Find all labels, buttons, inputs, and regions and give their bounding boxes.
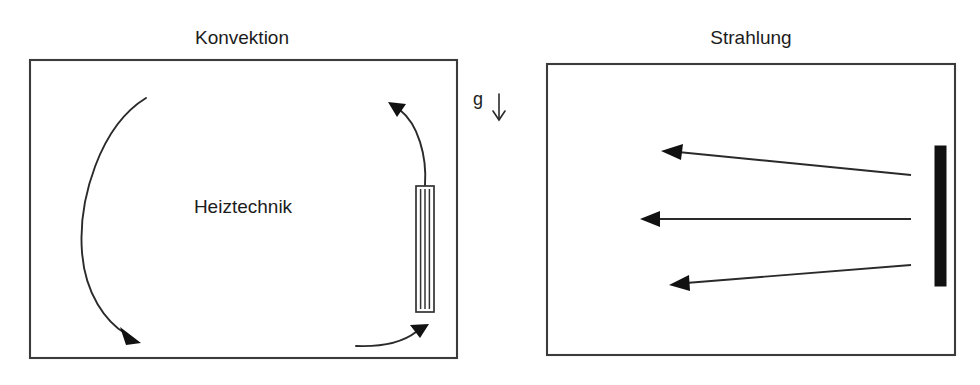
panel-title-konvektion: Konvektion	[195, 27, 289, 48]
gravity-indicator: g	[473, 89, 505, 120]
room-box-strahlung	[547, 64, 955, 355]
panel-strahlung: Strahlung	[547, 27, 955, 355]
panel-title-strahlung: Strahlung	[710, 27, 791, 48]
gravity-label: g	[473, 89, 483, 109]
diagram-canvas: Konvektion Heiztechnik	[0, 0, 980, 385]
inner-label-heiztechnik: Heiztechnik	[194, 196, 293, 217]
flat-radiant-panel	[935, 146, 946, 286]
panel-konvektion: Konvektion Heiztechnik	[30, 27, 457, 358]
gravity-arrow-down-icon	[493, 94, 505, 120]
finned-radiator	[416, 186, 434, 312]
heat-transfer-diagram: Konvektion Heiztechnik	[0, 0, 980, 385]
